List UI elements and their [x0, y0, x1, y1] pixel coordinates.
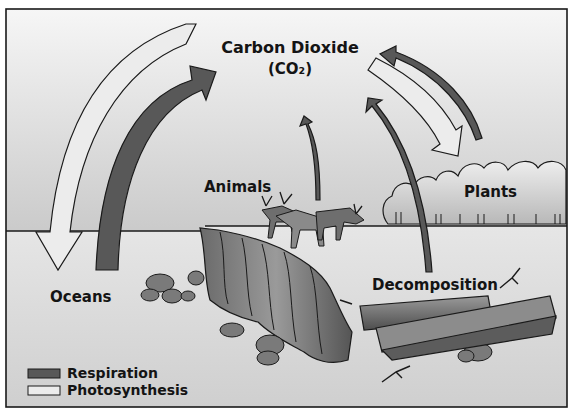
carbon-cycle-diagram: Carbon Dioxide (CO₂) Animals Plants Ocea… [0, 0, 573, 418]
decomposition-label: Decomposition [372, 276, 498, 294]
plants-label: Plants [464, 183, 517, 201]
animals-label: Animals [204, 178, 271, 196]
oceans-label: Oceans [50, 288, 112, 306]
co2-formula: (CO₂) [268, 60, 312, 78]
legend-swatch-respiration [28, 369, 60, 378]
legend-label-photosynthesis: Photosynthesis [67, 382, 188, 398]
legend-label-respiration: Respiration [67, 365, 158, 381]
legend-swatch-photosynthesis [28, 386, 60, 395]
carbon-dioxide-title: Carbon Dioxide [221, 38, 359, 57]
